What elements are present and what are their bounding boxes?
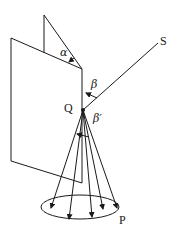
cone-base-ellipse xyxy=(41,195,119,219)
alpha-arrow-icon xyxy=(69,58,74,62)
beta-prime-arrow-icon xyxy=(77,134,89,137)
point-q-label: Q xyxy=(64,101,73,115)
point-p-label: P xyxy=(119,213,126,227)
incident-ray xyxy=(83,43,158,110)
alpha-label: α xyxy=(60,46,68,59)
beta-label: β xyxy=(90,78,97,91)
diagram-canvas: α S β Q β′ P xyxy=(0,0,177,235)
beta-arrow-icon xyxy=(86,93,97,98)
beta-prime-label: β′ xyxy=(92,112,102,125)
point-s-label: S xyxy=(160,34,167,48)
scattered-rays xyxy=(51,110,117,219)
